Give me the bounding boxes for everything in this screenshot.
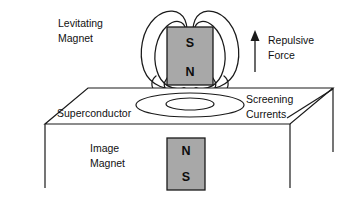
levitation-diagram: S N N S Levitating Magnet Repulsive Forc… <box>0 0 357 198</box>
screening-currents-label-line2: Currents <box>246 108 286 120</box>
levitating-magnet-label-line1: Levitating <box>58 17 103 29</box>
image-magnet-north-pole-label: N <box>181 144 190 158</box>
repulsive-force-arrow <box>251 30 260 72</box>
diagram-canvas: S N N S Levitating Magnet Repulsive Forc… <box>0 0 357 198</box>
screening-currents-label-line1: Screening <box>246 93 293 105</box>
repulsive-force-label-line1: Repulsive <box>268 34 314 46</box>
image-magnet: N S <box>167 138 205 190</box>
levitating-magnet: S N <box>167 27 213 85</box>
force-arrow-head-icon <box>251 30 260 41</box>
image-magnet-south-pole-label: S <box>182 170 190 184</box>
image-magnet-label-line1: Image <box>90 142 119 154</box>
levitating-magnet-south-pole-label: S <box>186 36 194 50</box>
image-magnet-label-line2: Magnet <box>90 157 125 169</box>
levitating-magnet-label-line2: Magnet <box>58 32 93 44</box>
levitating-magnet-north-pole-label: N <box>185 65 194 79</box>
superconductor-label: Superconductor <box>57 107 132 119</box>
repulsive-force-label-line2: Force <box>268 49 295 61</box>
